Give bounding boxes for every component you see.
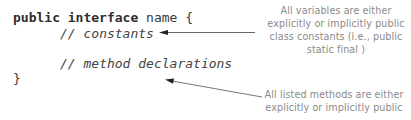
interface-name: name { [146,10,193,25]
annotation-constants-line-4: static final ) [262,43,410,56]
annotation-constants: All variables are either explicitly or i… [262,4,410,56]
keyword-interface: interface [68,10,138,25]
code-closing-brace: } [13,71,21,86]
code-comment-constants: // constants [60,26,154,41]
annotation-constants-line-1: All variables are either [262,4,410,17]
annotation-methods-line-1: All listed methods are either [258,88,410,101]
annotation-methods-line-2: explicitly or implicitly public [258,101,410,114]
code-line-interface-declaration: public interface name { [13,10,193,25]
keyword-public: public [13,10,60,25]
annotation-constants-line-3: class constants (i.e., public [262,30,410,43]
annotation-methods: All listed methods are either explicitly… [258,88,410,114]
arrow-to-constants-icon [159,30,255,35]
annotation-constants-line-2: explicitly or implicitly public [262,17,410,30]
arrow-to-methods-icon [165,79,262,97]
code-comment-method-declarations: // method declarations [60,56,232,71]
